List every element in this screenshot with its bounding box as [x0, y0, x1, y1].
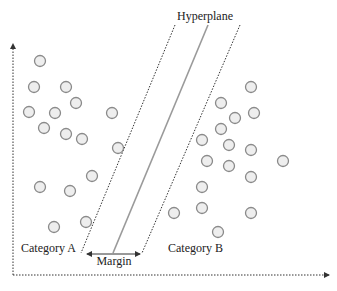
category-b-point	[224, 140, 235, 151]
category-a-point	[71, 98, 82, 109]
category-b-point	[197, 182, 208, 193]
category-b-point	[278, 156, 289, 167]
category-a-point	[24, 107, 35, 118]
category-b-point	[246, 82, 257, 93]
category-b-point	[216, 98, 227, 109]
category-a-point	[113, 143, 124, 154]
category-a-point	[77, 134, 88, 145]
category-a-point	[81, 217, 92, 228]
category-b-point	[246, 208, 257, 219]
svm-diagram: Hyperplane Category A Category B Margin	[0, 0, 337, 291]
category-b-point	[230, 113, 241, 124]
category-b-point	[202, 156, 213, 167]
category-a-label: Category A	[21, 241, 76, 255]
hyperplane-label: Hyperplane	[177, 9, 233, 23]
margin-boundary-b	[142, 25, 240, 253]
category-a-points	[24, 56, 124, 233]
category-a-point	[49, 222, 60, 233]
category-b-point	[197, 203, 208, 214]
category-b-point	[169, 208, 180, 219]
category-a-point	[107, 108, 118, 119]
category-a-point	[35, 56, 46, 67]
category-b-point	[246, 172, 257, 183]
category-a-point	[50, 108, 61, 119]
category-b-point	[216, 124, 227, 135]
category-b-points	[169, 82, 289, 238]
category-b-point	[249, 108, 260, 119]
category-b-point	[246, 145, 257, 156]
category-a-point	[29, 82, 40, 93]
category-a-point	[65, 186, 76, 197]
category-b-point	[197, 135, 208, 146]
category-b-point	[224, 161, 235, 172]
category-b-point	[213, 227, 224, 238]
category-a-point	[35, 182, 46, 193]
margin-label: Margin	[96, 254, 131, 268]
category-a-point	[61, 129, 72, 140]
category-a-point	[87, 171, 98, 182]
category-a-point	[61, 82, 72, 93]
category-b-label: Category B	[168, 241, 223, 255]
category-a-point	[39, 123, 50, 134]
